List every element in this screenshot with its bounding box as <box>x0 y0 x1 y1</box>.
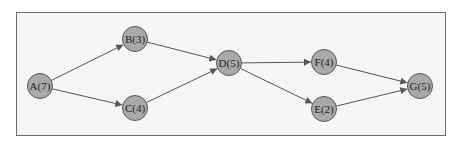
node-label: D(5) <box>219 57 240 70</box>
edge-d-to-e <box>240 68 312 103</box>
node-label: E(2) <box>314 103 334 116</box>
activity-network-graph: A(7)B(3)C(4)D(5)F(4)E(2)G(5) <box>0 0 460 143</box>
node-a: A(7) <box>28 74 53 99</box>
node-label: F(4) <box>315 56 334 69</box>
node-b: B(3) <box>123 27 148 52</box>
edge-d-to-f <box>242 62 312 63</box>
node-f: F(4) <box>312 50 337 75</box>
node-e: E(2) <box>312 97 337 122</box>
edge-a-to-b <box>51 45 123 81</box>
edge-e-to-g <box>336 89 407 106</box>
node-label: A(7) <box>30 80 51 93</box>
node-d: D(5) <box>217 51 242 76</box>
edge-a-to-c <box>52 89 122 105</box>
node-c: C(4) <box>123 96 148 121</box>
edge-b-to-d <box>147 42 216 60</box>
node-g: G(5) <box>408 74 433 99</box>
node-label: C(4) <box>125 102 146 115</box>
edge-f-to-g <box>336 65 407 83</box>
edge-c-to-d <box>146 69 217 103</box>
node-label: B(3) <box>125 33 146 46</box>
node-label: G(5) <box>410 80 431 93</box>
